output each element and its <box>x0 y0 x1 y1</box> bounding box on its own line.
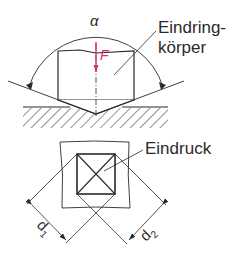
force-label: F <box>100 47 109 63</box>
vickers-diagram <box>0 0 247 259</box>
impression-label: Eindruck <box>145 140 211 158</box>
angle-label: α <box>90 12 99 29</box>
indenter-label-line1: Eindring- <box>158 19 226 37</box>
indenter-label-line2: körper <box>158 39 206 57</box>
